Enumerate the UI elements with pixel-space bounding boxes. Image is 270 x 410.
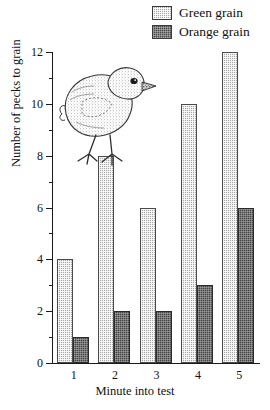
y-tick-major [46,208,52,209]
y-tick-major [46,156,52,157]
y-tick-label: 12 [31,46,43,58]
bar-group [98,52,132,363]
orange-grain-swatch [152,25,172,39]
bar-orange-grain-minute-5 [238,208,254,364]
bar-green-grain-minute-3 [140,208,156,364]
y-tick-minor [49,182,53,183]
bar-group [222,52,256,363]
x-axis-title: Minute into test [0,384,270,399]
y-axis-title: Number of pecks to grain [9,39,24,167]
bar-groups [53,52,260,363]
bar-green-grain-minute-1 [57,259,73,363]
y-tick-label: 10 [31,98,43,110]
y-tick-label: 0 [37,357,43,369]
x-tick-label: 5 [219,368,259,383]
bar-orange-grain-minute-1 [73,337,89,363]
bar-group [57,52,91,363]
green-grain-swatch [152,6,172,20]
y-tick-minor [49,285,53,286]
y-tick-label: 8 [37,150,43,162]
x-tick-label: 3 [137,368,177,383]
y-tick-label: 4 [37,253,43,265]
y-tick-major [46,52,52,53]
bar-orange-grain-minute-3 [156,311,172,363]
y-axis-title-wrap: Number of pecks to grain [10,52,24,364]
bar-orange-grain-minute-4 [197,285,213,363]
x-axis-line [52,363,260,364]
y-tick-minor [49,233,53,234]
bar-green-grain-minute-2 [98,156,114,363]
y-tick-minor [49,130,53,131]
y-tick-minor [49,337,53,338]
bar-green-grain-minute-4 [181,104,197,363]
legend-item-green-grain: Green grain [152,4,250,21]
bar-chart-figure: Green grain Orange grain Number of pecks… [0,0,270,410]
y-tick-label: 2 [37,305,43,317]
y-tick-minor [49,78,53,79]
y-tick-label: 6 [37,202,43,214]
bar-green-grain-minute-5 [222,52,238,363]
bar-group [181,52,215,363]
legend-label-green-grain: Green grain [179,5,243,20]
legend-label-orange-grain: Orange grain [179,24,250,39]
y-tick-major [46,363,52,364]
y-tick-major [46,311,52,312]
bar-group [140,52,174,363]
x-tick-label: 2 [95,368,135,383]
chart-legend: Green grain Orange grain [152,4,250,40]
bar-orange-grain-minute-2 [114,311,130,363]
x-tick-label: 4 [178,368,218,383]
x-tick-label: 1 [54,368,94,383]
legend-item-orange-grain: Orange grain [152,23,250,40]
plot-area: 024681012 12345 [52,52,260,364]
y-tick-major [46,259,52,260]
y-tick-major [46,104,52,105]
